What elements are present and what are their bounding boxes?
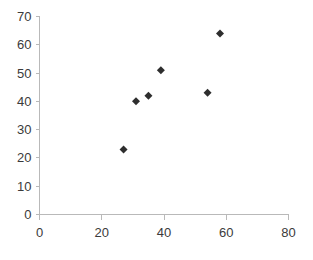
y-tick-label: 20: [17, 150, 31, 165]
y-tick-label: 70: [17, 9, 31, 24]
y-tick-label: 30: [17, 122, 31, 137]
y-tick-label: 40: [17, 94, 31, 109]
x-tick-label: 20: [95, 225, 109, 240]
x-tick-label: 0: [36, 225, 43, 240]
scatter-chart: 010203040506070 020406080: [0, 0, 313, 260]
y-tick-label: 50: [17, 66, 31, 81]
x-tick-label: 80: [281, 225, 295, 240]
y-tick-label: 0: [24, 207, 31, 222]
x-tick-label: 60: [219, 225, 233, 240]
y-tick-label: 60: [17, 37, 31, 52]
y-tick-label: 10: [17, 179, 31, 194]
x-tick-label: 40: [157, 225, 171, 240]
chart-canvas: 010203040506070 020406080: [0, 0, 313, 260]
chart-background: [0, 0, 313, 260]
